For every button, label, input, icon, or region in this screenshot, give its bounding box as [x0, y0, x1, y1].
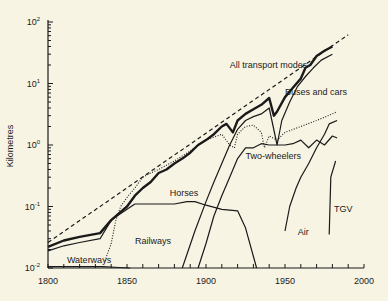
label-buses-and-cars: Buses and cars — [285, 87, 348, 97]
y-tick-label: 10-1 — [25, 201, 41, 212]
label-two-wheelers: Two-wheelers — [246, 151, 302, 161]
chart: 1800185019001950200010-210-1100101102 Al… — [0, 0, 388, 301]
label-waterways: Waterways — [67, 255, 112, 265]
series-all-transport-modes — [48, 47, 332, 247]
y-tick-label: 101 — [27, 78, 41, 89]
chart-svg: 1800185019001950200010-210-1100101102 Al… — [0, 0, 388, 301]
y-tick-label: 10-2 — [25, 262, 41, 273]
label-all-transport-modes: All transport modes — [230, 60, 308, 70]
label-horses: Horses — [170, 188, 199, 198]
x-tick-label: 1800 — [38, 276, 58, 286]
axes: 1800185019001950200010-210-1100101102 — [25, 16, 374, 286]
x-tick-label: 1950 — [275, 276, 295, 286]
x-tick-label: 1900 — [196, 276, 216, 286]
label-air: Air — [298, 227, 309, 237]
label-railways: Railways — [135, 236, 172, 246]
y-tick-label: 100 — [27, 139, 41, 150]
series-tgv — [329, 161, 335, 235]
y-tick-label: 102 — [27, 16, 41, 27]
y-axis-label: Kilometres — [5, 124, 15, 167]
label-tgv: TGV — [334, 204, 353, 214]
x-tick-label: 1850 — [117, 276, 137, 286]
x-tick-label: 2000 — [354, 276, 374, 286]
